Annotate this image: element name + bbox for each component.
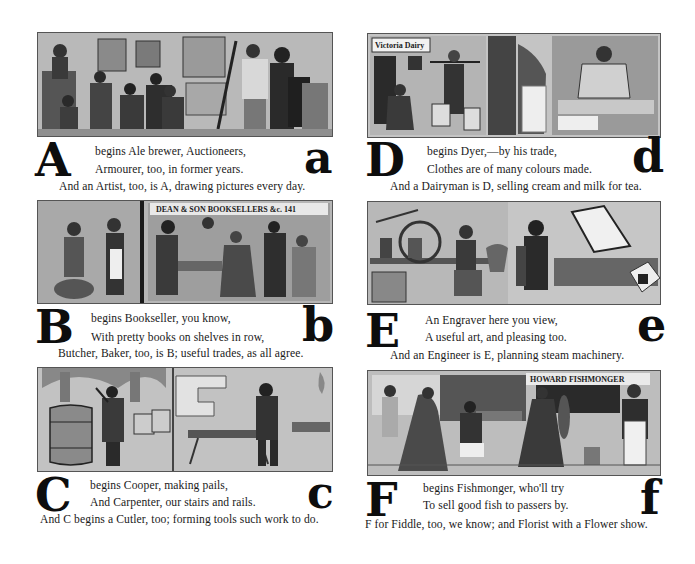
verse-line-2: Clothes are of many colours made. <box>427 163 592 176</box>
verse-line-3: And an Engineer is E, planning steam mac… <box>390 349 624 362</box>
verse-line-1: An Engraver here you view, <box>425 314 558 327</box>
verse-line-1: begins Bookseller, you know, <box>91 312 231 325</box>
capital-letter-e: E <box>365 308 400 354</box>
verse-line-2: A useful art, and pleasing too. <box>425 331 567 344</box>
verse-line-3: Butcher, Baker, too, is B; useful trades… <box>58 347 303 360</box>
verse-line-3: And an Artist, too, is A, drawing pictur… <box>59 180 305 193</box>
lowercase-letter-e: e <box>637 302 666 348</box>
lowercase-letter-d: d <box>632 133 664 179</box>
verse-line-3: And a Dairyman is D, selling cream and m… <box>390 180 642 193</box>
sign-victoria-dairy: Victoria Dairy <box>375 41 424 50</box>
lowercase-letter-f: f <box>640 475 660 521</box>
illustration-engineer-engraver <box>367 201 661 305</box>
illustration-fishmonger-florist: HOWARD FISHMONGER <box>367 370 661 476</box>
verse-line-3: F for Fiddle, too, we know; and Florist … <box>365 518 648 531</box>
capital-letter-a: A <box>35 137 71 183</box>
lowercase-letter-b: b <box>302 302 334 348</box>
verse-line-2: To sell good fish to passers by. <box>423 499 569 512</box>
lowercase-letter-a: a <box>304 136 333 180</box>
capital-letter-c: C <box>35 472 72 518</box>
illustration-cooper-carpenter <box>37 367 333 472</box>
sign-dean-son-booksellers: DEAN & SON BOOKSELLERS &c. 141 <box>156 205 296 214</box>
capital-letter-f: F <box>365 477 398 523</box>
verse-line-1: begins Ale brewer, Auctioneers, <box>95 145 246 158</box>
capital-letter-b: B <box>35 304 74 350</box>
verse-line-2: Armourer, too, in former years. <box>95 163 243 176</box>
verse-line-3: And C begins a Cutler, too; forming tool… <box>40 513 319 526</box>
verse-line-1: begins Fishmonger, who'll try <box>423 482 564 495</box>
verse-line-1: begins Dyer,—by his trade, <box>427 145 557 158</box>
verse-line-1: begins Cooper, making pails, <box>90 479 228 492</box>
illustration-dairyman-dyer: Victoria Dairy <box>367 33 661 138</box>
capital-letter-d: D <box>365 137 405 183</box>
sign-howard-fishmonger: HOWARD FISHMONGER <box>530 375 625 384</box>
lowercase-letter-c: c <box>307 471 334 515</box>
verse-line-2: And Carpenter, our stairs and rails. <box>90 496 256 509</box>
verse-line-2: With pretty books on shelves in row, <box>91 331 264 344</box>
illustration-auction-artist <box>37 32 333 137</box>
illustration-baker-bookseller: DEAN & SON BOOKSELLERS &c. 141 <box>37 200 333 304</box>
